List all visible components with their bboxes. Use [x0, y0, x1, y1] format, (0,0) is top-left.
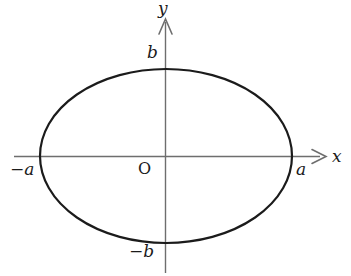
vertex-label-a: a — [296, 161, 306, 178]
vertex-label-negative-a: −a — [10, 161, 34, 178]
vertex-label-b: b — [147, 44, 158, 61]
ellipse-figure — [0, 0, 351, 276]
origin-label: O — [138, 161, 151, 177]
y-axis-label: y — [158, 0, 168, 17]
vertex-label-negative-b: −b — [129, 243, 154, 260]
x-axis-label: x — [332, 148, 342, 165]
